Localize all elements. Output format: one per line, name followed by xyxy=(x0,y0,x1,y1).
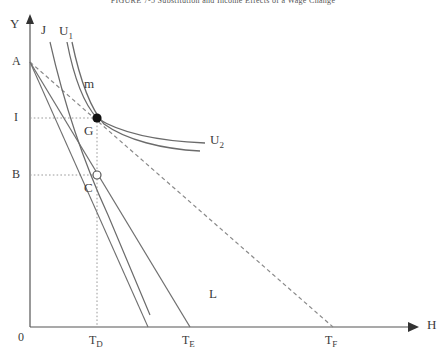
point-G-marker xyxy=(92,113,101,122)
curve-U1-subscript: 1 xyxy=(68,31,73,41)
x-tick-TF-subscript: F xyxy=(332,339,337,349)
y-tick-label-B: B xyxy=(12,168,20,180)
guide-lines-group xyxy=(30,118,97,327)
x-tick-label-TF: TF xyxy=(325,334,337,349)
plot-area xyxy=(0,0,446,357)
x-tick-TD-subscript: D xyxy=(96,339,103,349)
curve-label-U1: U1 xyxy=(59,24,73,41)
curve-U2-base: U xyxy=(210,132,219,147)
x-tick-label-TE: TE xyxy=(182,334,195,349)
budget-line-L xyxy=(30,62,190,327)
origin-label: 0 xyxy=(18,331,24,343)
curve-label-L: L xyxy=(209,287,217,300)
point-label-m: m xyxy=(84,77,94,90)
curve-label-J: J xyxy=(41,23,46,36)
y-tick-label-I: I xyxy=(14,111,18,123)
curve-label-U2: U2 xyxy=(210,133,224,150)
x-axis-label: H xyxy=(427,318,436,331)
y-axis-arrow xyxy=(26,14,34,24)
axes-group xyxy=(26,14,419,332)
y-tick-label-A: A xyxy=(12,55,21,67)
x-axis-arrow xyxy=(408,322,419,332)
x-tick-TE-subscript: E xyxy=(189,339,195,349)
budget-line-dashed-TF xyxy=(30,62,333,327)
point-C-marker xyxy=(93,171,101,179)
curve-U2-subscript: 2 xyxy=(219,140,224,150)
x-tick-label-TD: TD xyxy=(89,334,103,349)
point-label-G: G xyxy=(84,124,93,137)
curve-U1-base: U xyxy=(59,23,68,38)
y-axis-label: Y xyxy=(10,17,19,30)
point-label-C: C xyxy=(84,181,93,194)
figure-container: FIGURE 7-5 Substitution and Income Effec… xyxy=(0,0,446,357)
